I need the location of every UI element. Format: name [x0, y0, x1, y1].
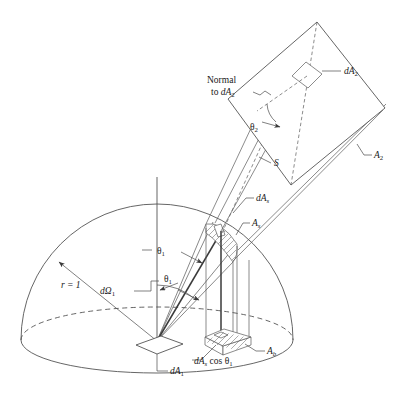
theta2-sub: 2 [255, 126, 259, 133]
dAs-leader [233, 198, 254, 213]
radius-label: r = 1 [61, 280, 81, 290]
Ab-label: Ab [266, 346, 277, 357]
dAs-cos-label: dAs cos θ1 [194, 356, 233, 367]
A2-sub: 2 [380, 154, 384, 161]
dA1-leader [157, 354, 168, 371]
diagram-canvas: r = 1 dΩ1 [0, 0, 402, 399]
surface-A2 [228, 22, 385, 185]
d-omega-1-leader: dΩ1 [100, 281, 159, 297]
S-leader [259, 157, 271, 163]
cone-central-ray [157, 232, 221, 341]
dA2-sym: dA [344, 66, 355, 76]
normal-label-line1: Normal [207, 75, 236, 85]
d-omega-1-label: dΩ1 [100, 286, 115, 297]
theta1-lower-arc [157, 285, 196, 300]
radius-line [59, 262, 157, 341]
dA2-label: dA2 [344, 66, 359, 77]
As-sub: s [258, 222, 261, 229]
dA1-sym: dA [170, 366, 181, 376]
dA1-sub: 1 [181, 370, 184, 377]
A2-leader [357, 144, 372, 155]
dAs-cos-prefix: dA [194, 356, 205, 366]
theta1-upper-sub: 1 [162, 250, 165, 257]
dA1-label: dA1 [170, 366, 184, 377]
patch-dA1: dA1 [136, 336, 184, 377]
theta1-upper-arrow [181, 252, 202, 263]
theta1-lower-label: θ1 [164, 274, 172, 285]
radius-indicator: r = 1 [59, 262, 157, 341]
dAs-sub: s [267, 197, 270, 204]
As-leader [236, 223, 250, 235]
normal-label-sym: dA [221, 87, 232, 97]
d-omega-1-bracket [134, 281, 159, 291]
normal-label-line2: to dA2 [211, 87, 235, 98]
dA1-parallelogram [136, 336, 183, 354]
dAs-cos-mid: cos [207, 356, 224, 366]
Ab-label-group: Ab [245, 344, 277, 357]
A2-quadrilateral [228, 22, 385, 185]
A2-label-group: A2 [357, 144, 384, 161]
theta1-lower-sub: 1 [169, 278, 172, 285]
A2-label: A2 [373, 150, 384, 161]
theta1-upper-label: θ1 [157, 246, 165, 257]
dA2-sub: 2 [355, 70, 359, 77]
As-label: As [251, 218, 261, 229]
d-omega-1-sym: dΩ [100, 286, 112, 296]
d-omega-1-sub: 1 [112, 290, 115, 297]
S-label-group: S [259, 157, 279, 168]
normal-label-sub: 2 [231, 91, 235, 98]
Ab-sub: b [273, 350, 277, 357]
view-factor-diagram: r = 1 dΩ1 [0, 0, 402, 399]
dAs-sym: dA [256, 193, 267, 203]
normal-label-prefix: to [211, 87, 221, 97]
S-label: S [274, 158, 279, 168]
dAs-label: dAs [256, 193, 270, 204]
cone-ray-3 [157, 245, 236, 341]
dAs-label-group: dAs [233, 193, 270, 213]
dAs-cos-theta-sub: 1 [229, 360, 232, 367]
